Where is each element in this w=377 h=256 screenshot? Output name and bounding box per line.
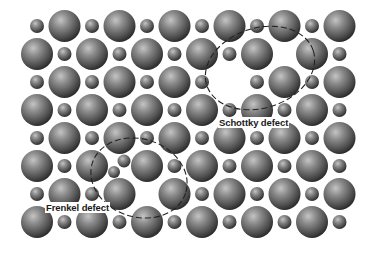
large-ion (49, 10, 81, 42)
large-ion (104, 66, 136, 98)
small-ion (168, 215, 182, 229)
large-ion (186, 150, 218, 182)
small-ion (333, 47, 347, 61)
large-ion (269, 178, 301, 210)
large-ion (21, 94, 53, 126)
large-ion (21, 38, 53, 70)
small-ion (30, 131, 44, 145)
schottky-defect-label: Schottky defect (218, 117, 289, 128)
small-ion (223, 159, 237, 173)
small-ion (250, 131, 264, 145)
large-ion (21, 150, 53, 182)
small-ion (85, 19, 99, 33)
small-ion (85, 131, 99, 145)
large-ion (131, 38, 163, 70)
small-ion (250, 75, 264, 89)
large-ion (214, 178, 246, 210)
large-ion (296, 94, 328, 126)
small-ion (113, 103, 127, 117)
small-ion (30, 75, 44, 89)
small-ion (305, 187, 319, 201)
small-ion (195, 131, 209, 145)
small-ion (58, 159, 72, 173)
large-ion (186, 94, 218, 126)
frenkel-defect-label: Frenkel defect (45, 202, 110, 213)
large-ion (241, 206, 273, 238)
small-ion (140, 75, 154, 89)
large-ion (296, 206, 328, 238)
small-ion (278, 103, 292, 117)
small-ion (305, 131, 319, 145)
large-ion (49, 122, 81, 154)
small-ion (108, 166, 120, 178)
large-ion (324, 10, 356, 42)
large-ion (186, 206, 218, 238)
small-ion (223, 103, 237, 117)
small-ion (195, 187, 209, 201)
small-ion (168, 103, 182, 117)
large-ion (324, 122, 356, 154)
small-ion (250, 19, 264, 33)
large-ion (76, 94, 108, 126)
small-ion (58, 215, 72, 229)
small-ion (250, 187, 264, 201)
large-ion (49, 66, 81, 98)
large-ion (131, 150, 163, 182)
large-ion (104, 10, 136, 42)
small-ion (113, 47, 127, 61)
large-ion (324, 66, 356, 98)
small-ion (30, 19, 44, 33)
large-ion (241, 38, 273, 70)
small-ion (333, 159, 347, 173)
crystal-lattice-diagram (0, 0, 377, 256)
small-ion (333, 215, 347, 229)
large-ion (296, 38, 328, 70)
large-ion (241, 150, 273, 182)
small-ion (195, 19, 209, 33)
large-ion (324, 178, 356, 210)
small-ion (278, 159, 292, 173)
small-ion (195, 75, 209, 89)
large-ion (76, 38, 108, 70)
large-ion (131, 94, 163, 126)
small-ion (85, 75, 99, 89)
large-ion (214, 10, 246, 42)
large-ion (159, 66, 191, 98)
small-ion (223, 215, 237, 229)
large-ion (296, 150, 328, 182)
small-ion (168, 47, 182, 61)
small-ion (118, 155, 131, 168)
small-ion (30, 187, 44, 201)
small-ion (333, 103, 347, 117)
small-ion (113, 215, 127, 229)
small-ion (140, 19, 154, 33)
small-ion (305, 19, 319, 33)
small-ion (278, 215, 292, 229)
large-ion (159, 122, 191, 154)
large-ion (131, 206, 163, 238)
large-ion (104, 122, 136, 154)
small-ion (85, 187, 99, 201)
small-ion (58, 47, 72, 61)
small-ion (140, 131, 154, 145)
small-ion (58, 103, 72, 117)
small-ion (223, 47, 237, 61)
large-ion (159, 10, 191, 42)
